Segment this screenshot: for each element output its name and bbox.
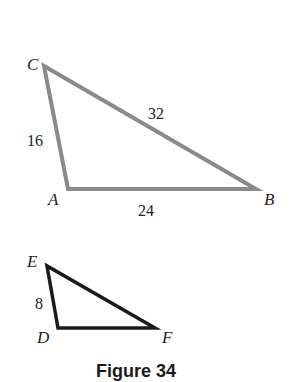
triangle-abc: C A B 16 24 32 [27, 55, 275, 219]
triangle-def: E D F 8 [26, 252, 173, 347]
vertex-label-f: F [161, 328, 173, 347]
vertex-label-a: A [47, 190, 59, 209]
figure-canvas: C A B 16 24 32 E D F 8 Figure 34 [0, 0, 292, 382]
side-label-cb: 32 [148, 105, 164, 122]
figure-caption: Figure 34 [96, 361, 176, 381]
vertex-label-c: C [27, 55, 39, 74]
vertex-label-b: B [264, 190, 275, 209]
triangle-def-shape [47, 266, 155, 328]
side-label-ed: 8 [35, 295, 43, 312]
triangle-abc-shape [44, 66, 256, 189]
vertex-label-e: E [26, 252, 38, 271]
side-label-ca: 16 [27, 132, 43, 149]
figure-svg: C A B 16 24 32 E D F 8 Figure 34 [0, 0, 292, 382]
vertex-label-d: D [36, 328, 50, 347]
side-label-ab: 24 [138, 202, 154, 219]
